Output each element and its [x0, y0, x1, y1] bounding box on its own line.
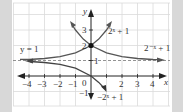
graph: y = 1 2ˣ + 1 2⁻ˣ + 1 −2ˣ + 1 x y 0 −4 −3…	[0, 0, 183, 112]
origin-label: 0	[82, 78, 87, 88]
x-tick-label: 3	[135, 79, 140, 89]
curve-right-label: 2⁻ˣ + 1	[144, 43, 170, 53]
intersection-point	[88, 43, 93, 48]
x-tick-label: 4	[150, 79, 155, 89]
x-tick-label: −3	[37, 79, 47, 89]
y-tick-label: −1	[79, 88, 89, 98]
x-tick-label: −2	[53, 79, 63, 89]
x-tick-label: −1	[68, 79, 78, 89]
curve-down-label: −2ˣ + 1	[97, 92, 123, 102]
x-tick-label: 2	[119, 79, 124, 89]
y-axis-label: y	[82, 6, 87, 16]
y-tick-label: 1	[94, 56, 99, 66]
x-axis-label: x	[163, 77, 168, 87]
y-tick-label: 2	[82, 41, 87, 51]
curve-up-label: 2ˣ + 1	[108, 26, 129, 36]
y-axis-arrow-down-icon	[88, 93, 94, 100]
arrow-head-icon	[157, 58, 165, 63]
y-axis-arrow-up-icon	[88, 9, 94, 17]
asymptote-label: y = 1	[20, 44, 39, 54]
x-tick-label: −4	[22, 79, 32, 89]
y-tick-label: 3	[82, 25, 87, 35]
